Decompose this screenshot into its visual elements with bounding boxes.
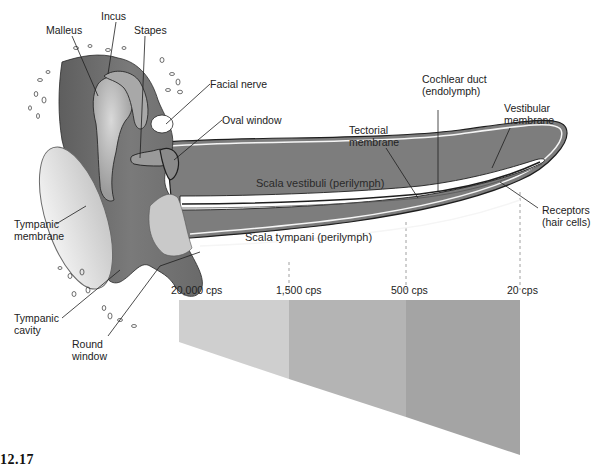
label-stapes: Stapes: [134, 24, 167, 36]
band-high-frequency: [179, 300, 289, 379]
figure-number: 12.17: [0, 452, 34, 464]
freq-tick-500: 500 cps: [391, 284, 428, 296]
band-mid-frequency: [289, 300, 406, 417]
label-scala-vestibuli: Scala vestibuli (perilymph): [256, 177, 384, 189]
frequency-map: [179, 300, 520, 455]
label-tympanic-membrane: Tympanic membrane: [14, 218, 64, 242]
label-tectorial-membrane: Tectorial membrane: [349, 124, 399, 148]
label-facial-nerve: Facial nerve: [210, 78, 267, 90]
label-receptors: Receptors (hair cells): [542, 204, 590, 228]
facial-nerve: [151, 115, 173, 133]
band-low-frequency: [406, 300, 520, 455]
label-cochlear-duct: Cochlear duct (endolymph): [422, 73, 487, 97]
label-malleus: Malleus: [46, 24, 82, 36]
label-oval-window: Oval window: [222, 114, 282, 126]
label-vestibular-membrane: Vestibular membrane: [504, 102, 554, 126]
freq-tick-1500: 1,500 cps: [276, 284, 322, 296]
freq-tick-20: 20 cps: [507, 284, 538, 296]
label-scala-tympani: Scala tympani (perilymph): [245, 231, 372, 243]
label-round-window: Round window: [72, 338, 107, 362]
freq-tick-20000: 20,000 cps: [171, 284, 222, 296]
label-incus: Incus: [101, 10, 126, 22]
label-tympanic-cavity: Tympanic cavity: [14, 312, 59, 336]
